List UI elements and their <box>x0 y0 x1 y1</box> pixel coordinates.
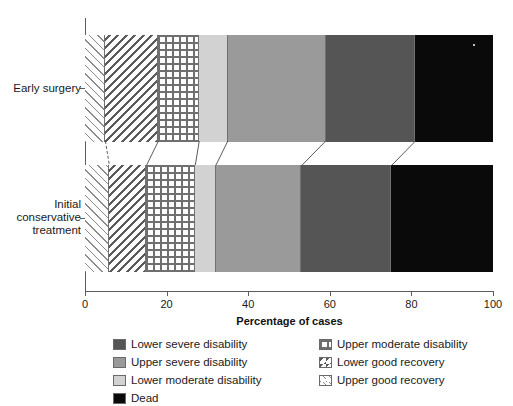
segment-lower-moderate-disability <box>199 35 228 142</box>
segment-upper-good-recovery <box>85 35 105 142</box>
legend-item-upper-severe-disability: Upper severe disability <box>113 354 301 370</box>
legend-label: Lower good recovery <box>337 356 444 368</box>
segment-lower-severe-disability <box>326 35 416 142</box>
legend-swatch-icon <box>319 339 332 350</box>
segment-dead <box>391 165 493 272</box>
x-axis-tick <box>330 291 331 296</box>
legend-label: Upper good recovery <box>337 374 444 386</box>
legend-swatch-icon <box>319 375 332 386</box>
legend-swatch-icon <box>113 357 126 368</box>
legend-label: Lower severe disability <box>131 338 247 350</box>
legend-column-right: Upper moderate disability Lower good rec… <box>319 336 499 406</box>
x-axis-tick <box>493 291 494 296</box>
segment-upper-good-recovery <box>85 165 109 272</box>
legend-item-lower-good-recovery: Lower good recovery <box>319 354 499 370</box>
bar-initial-conservative-treatment <box>85 165 493 272</box>
segment-lower-good-recovery <box>105 35 158 142</box>
legend-item-upper-moderate-disability: Upper moderate disability <box>319 336 499 352</box>
x-axis-tick-label: 20 <box>160 298 172 310</box>
segment-lower-severe-disability <box>301 165 391 272</box>
legend-swatch-icon <box>319 357 332 368</box>
segment-leader-lines <box>85 141 494 166</box>
segment-lower-moderate-disability <box>195 165 215 272</box>
x-axis-tick-label: 80 <box>405 298 417 310</box>
x-axis-tick-label: 100 <box>484 298 502 310</box>
x-axis-line <box>85 291 494 292</box>
y-axis-label-early-surgery: Early surgery <box>13 82 81 95</box>
x-axis-tick <box>411 291 412 296</box>
legend-swatch-icon <box>113 393 126 404</box>
segment-upper-severe-disability <box>228 35 326 142</box>
segment-dead <box>415 35 493 142</box>
chart-legend: Lower severe disability Upper severe dis… <box>113 336 503 406</box>
x-axis-tick-label: 0 <box>82 298 88 310</box>
legend-item-upper-good-recovery: Upper good recovery <box>319 372 499 388</box>
segment-upper-moderate-disability <box>146 165 195 272</box>
x-axis-title: Percentage of cases <box>85 315 494 327</box>
x-axis-tick-label: 40 <box>242 298 254 310</box>
y-axis-label-initial-conservative-treatment: Initial conservative treatment <box>16 198 81 237</box>
image-artifact-speck <box>473 44 475 46</box>
segment-upper-severe-disability <box>216 165 302 272</box>
legend-label: Upper severe disability <box>131 356 247 368</box>
legend-item-dead: Dead <box>113 390 301 406</box>
legend-swatch-icon <box>113 375 126 386</box>
legend-swatch-icon <box>113 339 126 350</box>
x-axis-tick <box>248 291 249 296</box>
bar-early-surgery <box>85 35 493 142</box>
x-axis-tick-label: 60 <box>324 298 336 310</box>
legend-item-lower-moderate-disability: Lower moderate disability <box>113 372 301 388</box>
legend-column-left: Lower severe disability Upper severe dis… <box>113 336 301 406</box>
legend-label: Lower moderate disability <box>131 374 261 386</box>
legend-label: Upper moderate disability <box>337 338 467 350</box>
segment-lower-good-recovery <box>109 165 146 272</box>
legend-label: Dead <box>131 392 159 404</box>
segment-upper-moderate-disability <box>158 35 199 142</box>
legend-item-lower-severe-disability: Lower severe disability <box>113 336 301 352</box>
x-axis-tick <box>167 291 168 296</box>
x-axis-tick <box>85 291 86 296</box>
